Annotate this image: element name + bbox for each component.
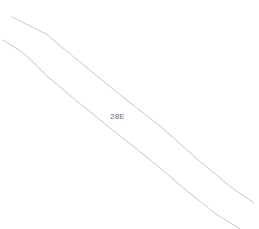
diagram-canvas: 28E (0, 0, 259, 229)
part-label-28e: 28E (110, 112, 125, 121)
lower-line-stroke (3, 40, 240, 229)
upper-line-stroke (12, 17, 254, 203)
diagram-svg (0, 0, 259, 229)
